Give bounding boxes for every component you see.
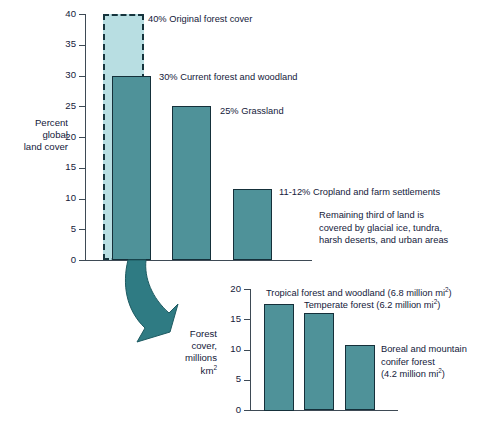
bottom-tick-mark-10	[244, 350, 250, 351]
top-tick-label-0: 0	[54, 254, 76, 265]
top-tick-mark-10	[79, 199, 85, 200]
annotation-boreal-forest-line2: conifer forest	[381, 356, 435, 368]
annotation-boreal-base: (4.2 million mi	[381, 369, 438, 379]
top-tick-label-5: 5	[54, 223, 76, 234]
annotation-tropical-base: Tropical forest and woodland (6.8 millio…	[266, 288, 445, 298]
top-tick-label-40: 40	[54, 8, 76, 19]
bottom-chart-y-axis-caption-line1: Forest	[165, 328, 217, 340]
bottom-chart-y-axis-units-exponent: 2	[213, 363, 217, 370]
bottom-chart-y-axis-caption-line4: km2	[165, 365, 217, 377]
top-tick-label-15: 15	[54, 161, 76, 172]
bar-current-forest-and-woodland[interactable]	[112, 76, 151, 261]
note-line-2: covered by glacial ice, tundra,	[319, 222, 442, 234]
top-tick-mark-5	[79, 229, 85, 230]
annotation-tropical-forest: Tropical forest and woodland (6.8 millio…	[266, 287, 452, 299]
annotation-original-forest-cover: 40% Original forest cover	[148, 13, 252, 25]
bottom-tick-mark-15	[244, 319, 250, 320]
bottom-chart-y-axis-caption-line2: cover,	[165, 340, 217, 352]
top-tick-mark-0	[79, 260, 85, 261]
top-tick-label-10: 10	[54, 192, 76, 203]
top-tick-label-35: 35	[54, 38, 76, 49]
top-chart-y-axis-caption-line2: global	[0, 129, 68, 141]
top-chart-y-axis-caption-line1: Percent	[0, 117, 68, 129]
annotation-current-forest-and-woodland: 30% Current forest and woodland	[159, 71, 298, 83]
note-line-3: harsh deserts, and urban areas	[319, 234, 448, 246]
top-tick-mark-40	[79, 14, 85, 15]
note-line-1: Remaining third of land is	[319, 209, 424, 221]
bottom-tick-mark-5	[244, 380, 250, 381]
annotation-temperate-base: Temperate forest (6.2 million mi	[304, 300, 434, 310]
top-tick-label-25: 25	[54, 100, 76, 111]
bar-cropland-and-farm-settlements[interactable]	[233, 189, 272, 260]
top-tick-mark-35	[79, 45, 85, 46]
top-tick-mark-15	[79, 168, 85, 169]
top-chart-y-axis-caption-line3: land cover	[0, 141, 68, 153]
bottom-tick-label-5: 5	[221, 373, 241, 384]
annotation-cropland-and-farm-settlements: 11-12% Cropland and farm settlements	[279, 186, 440, 198]
bar-boreal-and-mountain-conifer-forest[interactable]	[345, 345, 375, 410]
bottom-tick-label-15: 15	[221, 313, 241, 324]
annotation-temperate-forest: Temperate forest (6.2 million mi2)	[304, 299, 440, 311]
top-tick-mark-20	[79, 137, 85, 138]
bar-temperate-forest[interactable]	[304, 313, 334, 410]
bottom-tick-label-20: 20	[221, 283, 241, 294]
bottom-tick-label-10: 10	[221, 343, 241, 354]
annotation-boreal-tail: )	[442, 369, 445, 379]
annotation-boreal-forest-line3: (4.2 million mi2)	[381, 368, 445, 380]
top-tick-mark-25	[79, 106, 85, 107]
bottom-chart-y-axis-caption-line3: millions	[165, 352, 217, 364]
bar-grassland[interactable]	[172, 106, 211, 260]
annotation-boreal-forest-line1: Boreal and mountain	[381, 343, 467, 355]
bar-tropical-forest-and-woodland[interactable]	[264, 304, 294, 411]
bottom-chart-y-axis-units-base: km	[201, 365, 214, 376]
bottom-tick-mark-0	[244, 410, 250, 411]
bottom-tick-label-0: 0	[221, 404, 241, 415]
annotation-temperate-tail: )	[437, 300, 440, 310]
figure-canvas: 40 35 30 25 20 15 10 5 0 Percent global …	[0, 0, 490, 423]
annotation-tropical-tail: )	[448, 288, 451, 298]
bottom-tick-mark-20	[244, 289, 250, 290]
top-tick-label-30: 30	[54, 69, 76, 80]
top-tick-mark-30	[79, 76, 85, 77]
annotation-grassland: 25% Grassland	[220, 105, 284, 117]
